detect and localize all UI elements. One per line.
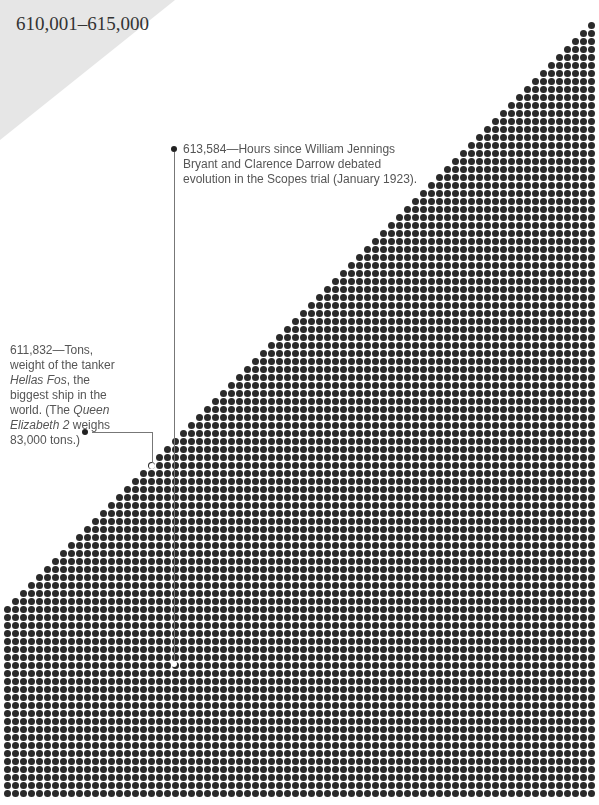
annotation-1-text: 613,584—Hours since William Jennings Bry… [183, 142, 417, 187]
annotation-1-leader-line [174, 152, 175, 664]
annotation-2-bullet [82, 429, 88, 435]
annotation-2-leader-h [92, 432, 152, 433]
annotation-2-target-dot [149, 463, 155, 469]
annotation-2-leader-v [152, 432, 153, 466]
annotation-1-target-dot [171, 661, 177, 667]
page: 610,001–615,000 613,584—Hours since Will… [0, 0, 599, 805]
